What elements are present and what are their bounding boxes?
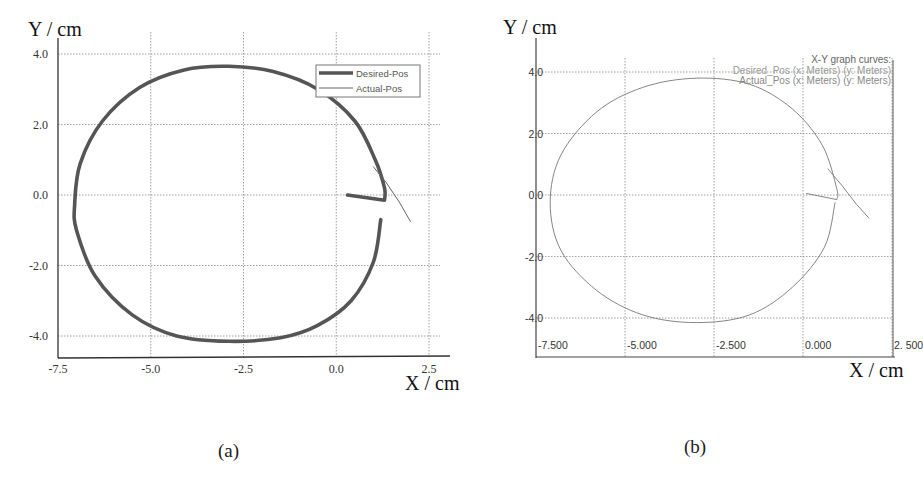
x-tick-label: -5.000 [627, 339, 657, 351]
y-tick-label: 2.0 [33, 118, 48, 132]
legend: X-Y graph curves: Desired_Pos (x: Meters… [733, 54, 891, 86]
panel-label-b: (b) [684, 436, 706, 458]
x-tick-label: 2.5 [422, 362, 437, 376]
x-tick-label: 2. 500 [894, 339, 923, 351]
x-tick-labels: -7.500-5.000-2.5000.0002. 500 [538, 339, 923, 351]
y-axis-label: Y / cm [28, 18, 82, 40]
y-tick-labels: 4.02.00.0-2.0-4.0 [525, 66, 543, 324]
x-tick-label: 0.0 [329, 362, 344, 376]
x-tick-label: -7.500 [538, 339, 568, 351]
gridlines [536, 58, 893, 357]
legend-actual-label: Actual-Pos [356, 83, 402, 94]
chart-panel-a: Y / cm X / cm 4.02.00.0-2.0-4.0 -7.5-5.0… [0, 0, 460, 400]
desired-pos-curve [74, 66, 385, 341]
legend-desired-label: Desired-Pos [356, 68, 409, 79]
x-tick-label: -5.0 [141, 362, 160, 376]
plot-curves [550, 78, 869, 323]
y-tick-label: 0.0 [528, 189, 543, 201]
y-tick-label: 2.0 [528, 128, 543, 140]
y-tick-label: 4.0 [528, 66, 543, 78]
x-tick-label: -2.500 [716, 339, 746, 351]
y-tick-label: 0.0 [33, 188, 48, 202]
y-tick-label: -2.0 [525, 251, 543, 263]
y-axis-label: Y / cm [503, 16, 557, 38]
y-tick-label: -4.0 [29, 329, 48, 343]
plot-curves [74, 66, 410, 341]
desired-pos-curve [550, 78, 838, 323]
legend-actual-label: Actual_Pos (x: Meters) (y: Meters) [739, 75, 891, 86]
x-axis-line [58, 356, 450, 358]
actual-pos-curve [373, 167, 410, 222]
x-axis-label: X / cm [849, 359, 904, 381]
legend: Desired-Pos Actual-Pos [316, 65, 420, 97]
y-tick-label: -2.0 [29, 259, 48, 273]
y-tick-labels: 4.02.00.0-2.0-4.0 [29, 47, 48, 343]
y-tick-label: 4.0 [33, 47, 48, 61]
x-tick-labels: -7.5-5.0-2.50.02.5 [49, 362, 437, 376]
panel-label-a: (a) [218, 440, 239, 462]
x-tick-label: 0.000 [805, 339, 831, 351]
legend-title: X-Y graph curves: [811, 54, 891, 65]
chart-panel-b: Y / cm X / cm 4.02.00.0-2.0-4.0 -7.500-5… [460, 0, 923, 400]
figure: Y / cm X / cm 4.02.00.0-2.0-4.0 -7.5-5.0… [0, 0, 923, 489]
x-tick-label: -2.5 [234, 362, 253, 376]
y-tick-label: -4.0 [525, 312, 543, 324]
x-tick-label: -7.5 [49, 362, 68, 376]
